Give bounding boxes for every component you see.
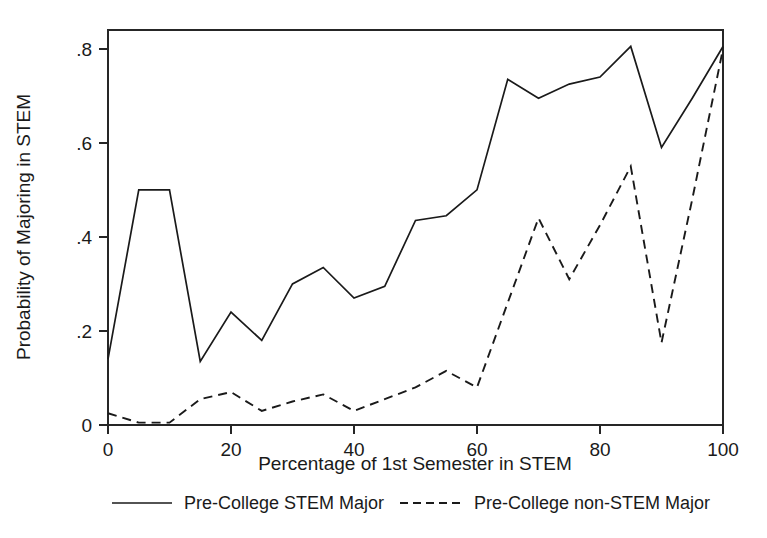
y-tick-label: .6: [76, 133, 92, 154]
chart-legend: Pre-College STEM Major Pre-College non-S…: [112, 493, 710, 513]
plot-frame: [108, 30, 723, 425]
legend-label-pre-college-stem-major: Pre-College STEM Major: [184, 493, 384, 513]
legend-label-pre-college-non-stem-major: Pre-College non-STEM Major: [474, 493, 710, 513]
x-tick-label: 100: [707, 439, 739, 460]
series-line-pre-college-stem-major: [108, 46, 723, 361]
y-tick-label: 0: [81, 415, 92, 436]
y-axis-ticks: 0.2.4.6.8: [76, 39, 108, 436]
y-tick-label: .4: [76, 227, 92, 248]
x-axis-title: Percentage of 1st Semester in STEM: [258, 453, 572, 474]
y-tick-label: .8: [76, 39, 92, 60]
x-tick-label: 0: [103, 439, 114, 460]
x-tick-label: 80: [589, 439, 610, 460]
x-tick-label: 20: [220, 439, 241, 460]
series-line-pre-college-non-stem-major: [108, 49, 723, 423]
y-tick-label: .2: [76, 321, 92, 342]
plot-border: [108, 30, 723, 425]
line-chart: 0.2.4.6.8 020406080100 Percentage of 1st…: [0, 0, 767, 538]
chart-figure: 0.2.4.6.8 020406080100 Percentage of 1st…: [0, 0, 767, 538]
y-axis-title: Probability of Majoring in STEM: [13, 94, 34, 360]
